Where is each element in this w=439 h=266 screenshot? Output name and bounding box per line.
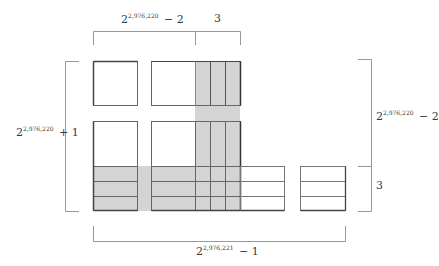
label-exponent: 2,976,220 [383,109,414,116]
label-tail: − 2 [416,110,439,123]
box-top-left [94,62,138,106]
shaded-regions [93,61,240,211]
label-tail: − 2 [161,13,184,26]
label-base: 2 [376,110,383,123]
label-tail: + 1 [56,126,79,139]
shaded-horizontal-strip [93,166,240,211]
label-bottom: 22,976,221 − 1 [196,244,259,258]
label-tail: − 1 [236,245,259,258]
label-exponent: 2,976,220 [23,125,54,132]
label-top-right: 3 [214,12,221,25]
label-exponent: 2,976,221 [203,244,234,251]
bracket-top [94,32,241,46]
label-text: 3 [376,179,383,192]
label-base: 2 [16,126,23,139]
bracket-right [358,60,372,212]
label-base: 2 [121,13,128,26]
label-top-left: 22,976,220 − 2 [121,12,184,26]
label-exponent: 2,976,220 [128,12,159,19]
label-right-lower: 3 [376,179,383,192]
label-right-upper: 22,976,220 − 2 [376,109,439,123]
box-far-right [301,167,346,211]
box-right-strips [241,167,285,211]
label-base: 2 [196,245,203,258]
label-left: 22,976,220 + 1 [16,125,79,139]
bracket-bottom [94,226,346,242]
label-text: 3 [214,12,221,25]
